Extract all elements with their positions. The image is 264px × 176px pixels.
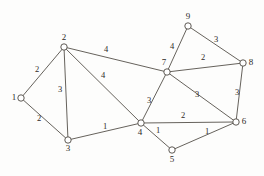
edge-2-4 — [66, 49, 138, 121]
edge-weight-4-7: 3 — [147, 95, 151, 105]
edge-weight-1-2: 2 — [35, 64, 39, 74]
edge-7-8 — [170, 63, 240, 71]
edge-2-7 — [67, 48, 164, 72]
node-label-2: 2 — [62, 32, 67, 42]
edge-weight-7-8: 2 — [201, 52, 205, 62]
node-circle-2[interactable] — [61, 44, 67, 50]
edge-weight-1-3: 2 — [37, 113, 41, 123]
edge-1-2 — [23, 49, 62, 95]
graph-diagram: 223441123133243 123456789 — [0, 0, 264, 176]
node-7[interactable]: 7 — [162, 57, 170, 75]
edge-4-6 — [144, 122, 233, 123]
node-9[interactable]: 9 — [185, 11, 191, 29]
edge-weight-2-3: 3 — [58, 84, 62, 94]
edge-2-3 — [64, 50, 68, 137]
edge-weight-3-4: 1 — [103, 121, 107, 131]
edge-weight-6-8: 3 — [235, 87, 239, 97]
node-6[interactable]: 6 — [233, 116, 247, 126]
node-label-9: 9 — [186, 11, 191, 21]
node-label-1: 1 — [12, 92, 17, 102]
node-circle-1[interactable] — [18, 95, 24, 101]
edge-weight-5-6: 1 — [205, 126, 209, 136]
edge-weight-8-9: 3 — [214, 34, 218, 44]
node-label-8: 8 — [249, 57, 254, 67]
edges-layer — [23, 28, 243, 149]
node-label-7: 7 — [162, 57, 167, 67]
node-8[interactable]: 8 — [240, 57, 254, 67]
node-circle-7[interactable] — [164, 69, 170, 75]
node-3[interactable]: 3 — [65, 137, 71, 153]
node-4[interactable]: 4 — [138, 120, 144, 137]
node-circle-9[interactable] — [185, 23, 191, 29]
edge-6-7 — [170, 74, 234, 120]
edge-weight-4-6: 2 — [181, 110, 185, 120]
node-2[interactable]: 2 — [61, 32, 67, 50]
node-circle-8[interactable] — [240, 60, 246, 66]
node-5[interactable]: 5 — [169, 147, 175, 164]
edge-weight-7-9: 4 — [170, 41, 175, 51]
node-label-6: 6 — [242, 116, 247, 126]
edge-weight-4-5: 1 — [156, 125, 160, 135]
edge-1-3 — [23, 100, 65, 138]
graph-canvas: 223441123133243 123456789 — [0, 0, 264, 176]
edge-weight-6-7: 3 — [195, 89, 199, 99]
node-label-5: 5 — [170, 154, 175, 164]
edge-weight-2-7: 4 — [104, 44, 109, 54]
edge-8-9 — [191, 28, 241, 61]
node-label-3: 3 — [66, 143, 71, 153]
node-circle-6[interactable] — [233, 119, 239, 125]
node-1[interactable]: 1 — [12, 92, 24, 102]
edge-weight-2-4: 4 — [101, 70, 106, 80]
node-label-4: 4 — [138, 127, 143, 137]
node-circle-5[interactable] — [169, 147, 175, 153]
node-circle-4[interactable] — [138, 120, 144, 126]
